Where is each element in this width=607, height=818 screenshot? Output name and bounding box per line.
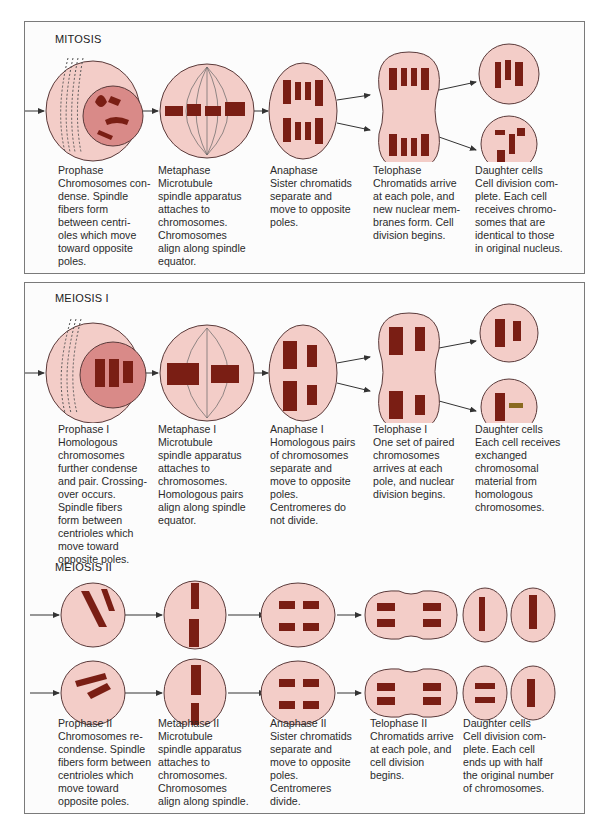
mitosis-panel: MITOSIS bbox=[24, 21, 585, 274]
daughter-cell-bottom-icon bbox=[481, 116, 537, 162]
daughter-cell-top-icon bbox=[479, 44, 539, 104]
meiosis1-prophase-caption: Prophase IHomologous chromosomes further… bbox=[58, 423, 170, 566]
metaphase-cell-icon bbox=[160, 64, 254, 158]
daughter1-cell-bottom-icon bbox=[481, 379, 537, 423]
anaphase1-cell-icon bbox=[269, 325, 337, 421]
telophase2-top-cell-icon bbox=[365, 591, 457, 639]
anaphase2-top-cell-icon bbox=[261, 583, 335, 647]
meiosis-panel: MEIOSIS I bbox=[24, 282, 585, 814]
metaphase1-cell-icon bbox=[160, 325, 254, 421]
telophase-cell-icon bbox=[379, 52, 440, 162]
mitosis-telophase-caption: TelophaseChromatids arrive at each pole,… bbox=[373, 164, 485, 242]
meiosis1-daughter-caption: Daughter cellsEach cell receives exchang… bbox=[475, 423, 587, 514]
meiosis1-metaphase-caption: Metaphase IMicrotubule spindle apparatus… bbox=[158, 423, 270, 527]
meiosis2-daughter-caption: Daughter cellsCell division com- plete. … bbox=[463, 717, 581, 795]
meiosis2-anaphase-caption: Anaphase IISister chromatids separate an… bbox=[270, 717, 382, 808]
daughter1-cell-top-icon bbox=[480, 304, 538, 362]
meiosis2-title: MEIOSIS II bbox=[55, 561, 112, 573]
mitosis-prophase-caption: ProphaseChromosomes con- dense. Spindle … bbox=[58, 164, 170, 268]
meiosis2-illustration bbox=[25, 575, 584, 725]
meiosis1-anaphase-caption: Anaphase IHomologous pairs of chromosome… bbox=[270, 423, 382, 527]
telophase1-cell-icon bbox=[379, 313, 440, 423]
meiosis2-prophase-caption: Prophase IIChromosomes re- condense. Spi… bbox=[58, 717, 170, 808]
prophase1-cell-icon bbox=[46, 319, 146, 423]
mitosis-anaphase-caption: AnaphaseSister chromatids separate and m… bbox=[270, 164, 382, 229]
mitosis-daughter-caption: Daughter cellsCell division com- plete. … bbox=[475, 164, 587, 255]
meiosis1-illustration bbox=[25, 283, 584, 423]
daughter2-bottom-cell-a-icon bbox=[463, 666, 507, 720]
anaphase-cell-icon bbox=[269, 63, 337, 159]
telophase2-bottom-cell-icon bbox=[365, 669, 457, 717]
meiosis2-metaphase-caption: Metaphase IIMicrotubule spindle apparatu… bbox=[158, 717, 270, 808]
mitosis-illustration bbox=[25, 22, 584, 162]
anaphase2-bottom-cell-icon bbox=[261, 661, 335, 725]
meiosis1-telophase-caption: Telophase IOne set of paired chromosomes… bbox=[373, 423, 485, 501]
prophase-cell-icon bbox=[46, 58, 143, 161]
mitosis-metaphase-caption: MetaphaseMicrotubule spindle apparatus a… bbox=[158, 164, 270, 268]
